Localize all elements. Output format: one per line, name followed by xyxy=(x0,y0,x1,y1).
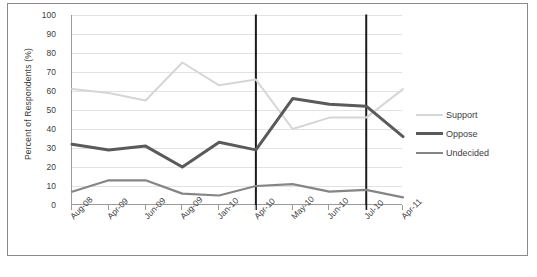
legend-label: Support xyxy=(446,110,478,120)
legend-swatch-icon xyxy=(416,132,443,135)
y-tick-label: 100 xyxy=(30,11,56,20)
legend-label: Undecided xyxy=(446,148,489,158)
y-tick-label: 50 xyxy=(30,106,56,115)
chart-figure: Percent of Respondents (%) 1009080706050… xyxy=(7,3,528,256)
y-axis-tick-labels: 1009080706050403020100 xyxy=(30,4,56,257)
y-tick-label: 80 xyxy=(30,49,56,58)
y-tick-label: 40 xyxy=(30,125,56,134)
y-tick-label: 0 xyxy=(30,201,56,210)
series-line-oppose xyxy=(72,99,403,167)
y-tick-label: 30 xyxy=(30,144,56,153)
y-tick-label: 20 xyxy=(30,163,56,172)
series-line-undecided xyxy=(72,180,403,197)
y-tick-label: 60 xyxy=(30,87,56,96)
legend-item-support[interactable]: Support xyxy=(416,105,526,124)
chart-legend: SupportOpposeUndecided xyxy=(416,105,526,162)
series-lines xyxy=(72,15,403,205)
legend-label: Oppose xyxy=(446,129,478,139)
legend-swatch-icon xyxy=(416,114,443,116)
series-line-support xyxy=(72,63,403,130)
legend-item-undecided[interactable]: Undecided xyxy=(416,143,526,162)
y-tick-label: 90 xyxy=(30,30,56,39)
x-axis-tick-labels: Aug-08Apr-09Jun-09Aug-09Jan-10Apr-10May-… xyxy=(71,210,402,258)
chart-plot-container: Percent of Respondents (%) 1009080706050… xyxy=(8,4,529,257)
legend-swatch-icon xyxy=(416,152,443,154)
y-tick-label: 10 xyxy=(30,182,56,191)
y-tick-label: 70 xyxy=(30,68,56,77)
plot-area xyxy=(71,15,402,205)
figure-caption xyxy=(9,266,529,277)
legend-item-oppose[interactable]: Oppose xyxy=(416,124,526,143)
